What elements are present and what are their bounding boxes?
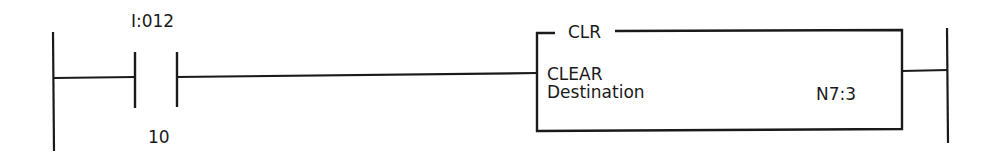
rung-wire-right bbox=[902, 70, 948, 71]
contact-bit-label: 10 bbox=[148, 129, 170, 146]
rung-wire-left bbox=[54, 77, 135, 78]
parameter-value: N7:3 bbox=[816, 86, 856, 103]
parameter-label: Destination bbox=[547, 84, 645, 101]
rung-wire-middle bbox=[177, 73, 537, 77]
right-power-rail bbox=[947, 28, 948, 143]
instruction-mnemonic: CLR bbox=[564, 24, 605, 41]
contact-address-label: I:012 bbox=[131, 13, 174, 30]
instruction-name: CLEAR bbox=[547, 66, 603, 83]
left-power-rail bbox=[53, 32, 54, 151]
